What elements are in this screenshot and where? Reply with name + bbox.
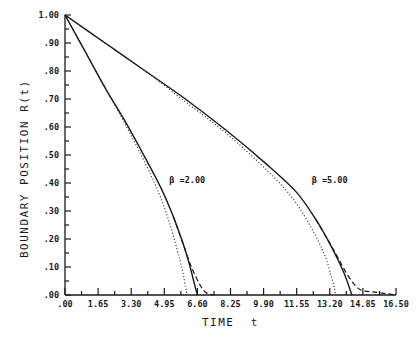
x-tick-label: 11.55 <box>284 299 310 309</box>
x-tick-label: 13.20 <box>317 299 343 309</box>
x-tick-label: 8.25 <box>220 299 240 309</box>
y-tick-label: .80 <box>44 66 59 76</box>
x-tick-label: 6.60 <box>187 299 207 309</box>
series-line-beta-5-00-dashed <box>316 219 396 295</box>
curve-annotation: β =5.00 <box>312 175 348 185</box>
y-tick-label: .50 <box>44 150 59 160</box>
series-line-beta-2-00-dashed <box>173 217 213 295</box>
axes <box>65 15 396 295</box>
y-tick-label: 1.00 <box>39 10 59 20</box>
x-ticks: .001.653.304.956.608.259.9011.5513.2014.… <box>57 288 408 309</box>
x-tick-label: 3.30 <box>121 299 141 309</box>
y-tick-label: .60 <box>44 122 59 132</box>
series-line-beta-5-00-solid <box>65 15 352 295</box>
y-tick-label: .70 <box>44 94 59 104</box>
x-tick-label: .00 <box>57 299 72 309</box>
y-ticks: .00.10.20.30.40.50.60.70.80.901.00 <box>39 10 71 300</box>
x-tick-label: 1.65 <box>88 299 108 309</box>
x-tick-label: 14.85 <box>350 299 376 309</box>
x-tick-label: 4.95 <box>154 299 174 309</box>
y-axis-title: BOUNDARY POSITION R(t) <box>18 79 31 258</box>
y-tick-label: .10 <box>44 262 59 272</box>
series-line-beta-2-00-solid <box>65 15 197 295</box>
curve-annotation: β =2.00 <box>169 175 205 185</box>
y-tick-label: .90 <box>44 38 59 48</box>
chart: .00.10.20.30.40.50.60.70.80.901.00 .001.… <box>0 0 420 339</box>
series-group <box>65 15 396 295</box>
annotations: β =2.00β =5.00 <box>169 175 347 185</box>
x-tick-label: 16.50 <box>383 299 409 309</box>
y-tick-label: .20 <box>44 234 59 244</box>
y-tick-label: .30 <box>44 206 59 216</box>
series-line-beta-5-00-dotted <box>65 15 336 295</box>
y-tick-label: .40 <box>44 178 59 188</box>
x-tick-label: 9.90 <box>253 299 273 309</box>
x-axis-title: TIME t <box>202 316 259 329</box>
